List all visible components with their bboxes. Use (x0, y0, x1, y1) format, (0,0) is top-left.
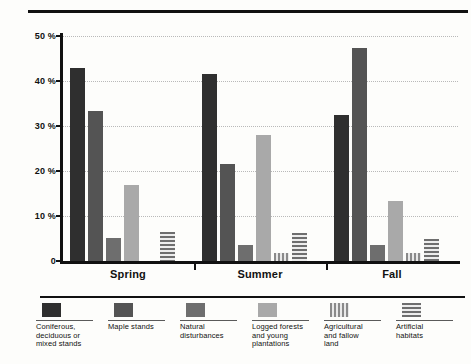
legend-swatch-icon (402, 303, 421, 317)
bar-groups (62, 36, 458, 261)
legend-item-1[interactable]: Maple stands (108, 303, 180, 361)
bar (70, 68, 85, 262)
legend-swatch-icon (186, 303, 205, 317)
legend-swatch-icon (114, 303, 133, 317)
y-axis-tick-label: 50 % (35, 31, 56, 41)
legend-item-3[interactable]: Logged forests and young plantations (252, 303, 324, 361)
top-divider (28, 10, 468, 13)
legend-item-0[interactable]: Coniferous, deciduous or mixed stands (36, 303, 108, 361)
x-axis-label-summer: Summer (194, 268, 326, 284)
chart-figure: 50 %40 %30 %20 %10 %0 SpringSummerFall C… (0, 0, 471, 364)
legend-item-underline (180, 320, 237, 321)
legend-item-underline (108, 320, 165, 321)
legend-item-label: Artificial habitats (396, 323, 464, 340)
legend-item-2[interactable]: Natural disturbances (180, 303, 252, 361)
plot-area: 50 %40 %30 %20 %10 %0 (62, 36, 458, 261)
bar (424, 239, 439, 262)
legend-item-label: Maple stands (108, 323, 176, 332)
bar (292, 233, 307, 261)
bar (202, 74, 217, 261)
legend-item-label: Logged forests and young plantations (252, 323, 320, 349)
y-axis-tick-label: 10 % (35, 211, 56, 221)
legend-item-underline (396, 320, 453, 321)
legend-item-label: Agricultural and fallow land (324, 323, 392, 349)
legend-divider (40, 296, 465, 298)
legend-item-underline (36, 320, 93, 321)
legend-item-underline (324, 320, 381, 321)
x-axis-label-spring: Spring (62, 268, 194, 284)
y-axis-tick-label: 20 % (35, 166, 56, 176)
x-axis-line (60, 261, 460, 264)
bar (88, 111, 103, 261)
bar-group-spring (62, 36, 194, 261)
y-axis-tick-label: 40 % (35, 76, 56, 86)
legend-swatch-icon (330, 303, 349, 317)
legend-item-underline (252, 320, 309, 321)
bar (124, 185, 139, 262)
legend-item-5[interactable]: Artificial habitats (396, 303, 468, 361)
x-axis-category-labels: SpringSummerFall (62, 268, 458, 284)
bar (256, 135, 271, 261)
legend-item-label: Natural disturbances (180, 323, 248, 340)
legend-swatch-icon (42, 303, 61, 317)
bar (406, 253, 421, 261)
bar-group-fall (326, 36, 458, 261)
x-axis-label-fall: Fall (326, 268, 458, 284)
bar (352, 48, 367, 261)
legend-item-label: Coniferous, deciduous or mixed stands (36, 323, 104, 349)
bar (220, 164, 235, 261)
bar (106, 238, 121, 261)
bar (370, 245, 385, 261)
y-axis-tick-label: 30 % (35, 121, 56, 131)
bar (238, 245, 253, 261)
bar (388, 201, 403, 261)
bar (160, 232, 175, 261)
bar (334, 115, 349, 261)
chart-legend: Coniferous, deciduous or mixed standsMap… (36, 303, 468, 361)
bar (274, 253, 289, 261)
bar-group-summer (194, 36, 326, 261)
legend-swatch-icon (258, 303, 277, 317)
legend-item-4[interactable]: Agricultural and fallow land (324, 303, 396, 361)
